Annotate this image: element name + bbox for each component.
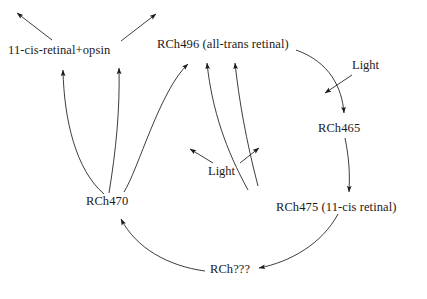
photocycle-diagram: 11-cis-retinal+opsin RCh496 (all-trans r… xyxy=(0,0,427,299)
edge-rch470-to-opsin xyxy=(63,70,104,194)
edge-rch470-to-rch496-inner xyxy=(109,68,119,193)
edge-light-right-to-rch496-rch465 xyxy=(325,75,352,93)
edge-rch465-to-rch475 xyxy=(345,138,349,192)
node-label-11-cis-retinal-opsin: 11-cis-retinal+opsin xyxy=(8,44,110,57)
annotation-light-right: Light xyxy=(352,59,379,72)
node-label-rch475: RCh475 (11-cis retinal) xyxy=(276,201,397,214)
node-label-rch470: RCh470 xyxy=(86,195,128,208)
annotation-light-center: Light xyxy=(208,165,235,178)
edge-opsin-out-upper-right xyxy=(121,14,156,41)
node-label-rch496: RCh496 (all-trans retinal) xyxy=(157,38,289,51)
edge-rch475-to-rch496-secondary xyxy=(235,63,258,186)
node-label-rch465: RCh465 xyxy=(318,122,360,135)
edge-light-center-to-left xyxy=(190,149,213,163)
node-label-rch-unknown: RCh??? xyxy=(210,263,250,276)
edge-rch496-to-rch465 xyxy=(296,50,344,113)
edge-rch475-to-rchunknown xyxy=(259,214,338,268)
edge-opsin-out-upper-left xyxy=(17,13,52,40)
edge-rch470-to-rch496-outer xyxy=(124,64,188,192)
edge-rchunknown-to-rch470 xyxy=(121,219,205,271)
